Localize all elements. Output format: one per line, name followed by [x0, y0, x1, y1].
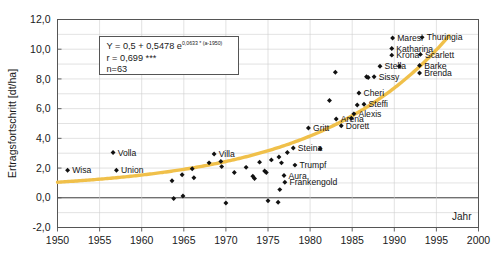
y-axis-ticks: 12,010,08,06,04,02,00,0-2,0: [30, 13, 61, 233]
x-axis-title: Jahr: [452, 211, 472, 222]
equation-sample-size: n=63: [107, 64, 128, 74]
x-tick-label: 1960: [130, 234, 154, 246]
data-point-label: Trumpf: [300, 160, 328, 170]
x-tick-label: 1970: [214, 234, 238, 246]
data-point-label: Scarlett: [425, 50, 455, 60]
data-point-label: Wisa: [72, 165, 91, 175]
equation-exponent: 0,0633 * (a-1950): [182, 40, 223, 46]
y-tick-label: 0,0: [36, 191, 51, 203]
data-point-label: Cheri: [364, 88, 385, 98]
data-point-label: Volla: [118, 148, 137, 158]
y-tick-label: 10,0: [30, 43, 51, 55]
x-tick-label: 1995: [425, 234, 449, 246]
x-tick-label: 1950: [46, 234, 70, 246]
data-point-label: Sissy: [379, 72, 400, 82]
scatter-chart: 12,010,08,06,04,02,00,0-2,0 195019551960…: [0, 0, 498, 269]
y-tick-label: -2,0: [32, 221, 50, 233]
x-tick-label: 2000: [467, 234, 491, 246]
y-tick-label: 8,0: [36, 73, 51, 85]
data-point-label: Thuringia: [427, 32, 463, 42]
x-tick-label: 1965: [172, 234, 196, 246]
x-axis-ticks: 1950195519601965197019751980198519901995…: [46, 228, 491, 246]
data-point-label: Steina: [298, 143, 323, 153]
x-tick-label: 1985: [341, 234, 365, 246]
x-tick-label: 1975: [256, 234, 280, 246]
data-point-label: Dorett: [346, 121, 370, 131]
data-point-label: Brenda: [424, 68, 452, 78]
equation-box: Y = 0,5 + 0,5478 e0,0633 * (a-1950)r = 0…: [100, 37, 239, 75]
data-point-label: Frankengold: [289, 177, 337, 187]
y-tick-label: 6,0: [36, 102, 51, 114]
data-point-label: Gritt: [313, 123, 330, 133]
x-tick-label: 1980: [298, 234, 322, 246]
data-point-label: Stella: [385, 61, 407, 71]
x-tick-label: 1955: [88, 234, 112, 246]
data-point-label: Steffi: [369, 99, 389, 109]
x-tick-label: 1990: [383, 234, 407, 246]
data-point-label: Alexis: [358, 109, 381, 119]
data-point-label: Maresi: [397, 33, 423, 43]
equation-correlation: r = 0,699 ***: [107, 53, 157, 63]
data-point-label: Villa: [219, 149, 235, 159]
y-tick-label: 2,0: [36, 162, 51, 174]
y-axis-title: Ertragsfortschritt [dt/ha]: [6, 69, 18, 178]
chart-container: 12,010,08,06,04,02,00,0-2,0 195019551960…: [0, 0, 498, 269]
y-tick-label: 12,0: [30, 13, 51, 25]
data-point-label: Union: [121, 165, 144, 175]
y-tick-label: 4,0: [36, 132, 51, 144]
